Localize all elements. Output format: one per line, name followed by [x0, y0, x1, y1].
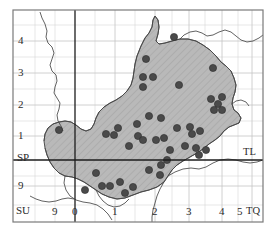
record-dot — [106, 182, 113, 189]
x-tick-5: 5 — [237, 206, 243, 217]
record-dot — [133, 120, 140, 127]
record-dot — [202, 146, 209, 153]
record-dot — [192, 144, 199, 151]
record-dot — [186, 123, 193, 130]
record-dot — [207, 95, 214, 102]
record-dot — [139, 73, 146, 80]
x-tick-0: 0 — [72, 206, 78, 217]
x-tick-su-9: 9 — [52, 206, 58, 217]
y-tick-2: 2 — [18, 99, 24, 110]
record-dot — [55, 126, 62, 133]
record-dot — [156, 171, 163, 178]
y-tick-1: 1 — [18, 130, 24, 141]
x-tick-1: 1 — [112, 206, 118, 217]
record-dot — [121, 189, 128, 196]
record-dot — [210, 106, 217, 113]
y-tick-9: 9 — [18, 180, 24, 191]
record-dot — [139, 83, 146, 90]
record-dot — [125, 142, 132, 149]
quadrant-label-su: SU — [16, 205, 30, 216]
x-tick-4: 4 — [219, 206, 225, 217]
y-tick-3: 3 — [18, 67, 24, 78]
record-dot — [152, 136, 159, 143]
record-dot — [81, 186, 88, 193]
record-dot — [218, 93, 225, 100]
record-dot — [145, 112, 152, 119]
record-dot — [209, 64, 216, 71]
record-dot — [114, 124, 121, 131]
record-dot — [129, 183, 136, 190]
record-dot — [110, 131, 117, 138]
record-dot — [160, 134, 167, 141]
map-canvas — [0, 0, 270, 231]
record-dot — [98, 182, 105, 189]
record-dot — [166, 146, 173, 153]
record-dot — [149, 73, 156, 80]
record-dot — [142, 55, 149, 62]
record-dot — [173, 124, 180, 131]
y-tick-4: 4 — [18, 35, 24, 46]
record-dot — [92, 169, 99, 176]
record-dot — [157, 114, 164, 121]
quadrant-label-sp: SP — [17, 152, 29, 163]
distribution-map-figure: 4 3 2 1 SP 9 SU 9 0 1 2 3 4 5 TQ TL — [0, 0, 270, 231]
quadrant-label-tl: TL — [243, 147, 256, 158]
record-dot — [170, 33, 177, 40]
record-dot — [181, 142, 188, 149]
record-dot — [175, 81, 182, 88]
record-dot — [145, 166, 152, 173]
record-dot — [188, 130, 195, 137]
record-dot — [196, 127, 203, 134]
record-dot — [116, 178, 123, 185]
record-dot — [139, 136, 146, 143]
x-tick-2: 2 — [152, 206, 158, 217]
x-tick-3: 3 — [186, 206, 192, 217]
record-dot — [218, 106, 225, 113]
record-dot — [102, 130, 109, 137]
record-dot — [157, 161, 164, 168]
quadrant-label-tq: TQ — [246, 206, 260, 217]
record-dot — [195, 151, 202, 158]
